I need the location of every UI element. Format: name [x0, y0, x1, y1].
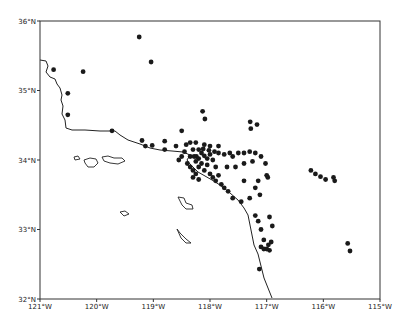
station-point	[263, 161, 268, 166]
island-outline	[102, 156, 125, 164]
station-point	[270, 224, 275, 229]
station-point	[110, 128, 115, 133]
station-point	[182, 149, 187, 154]
station-point	[203, 117, 208, 122]
station-point	[313, 172, 318, 177]
station-point	[247, 149, 252, 154]
y-tick-label: 34°N	[18, 157, 36, 165]
y-tick-label: 33°N	[18, 226, 36, 234]
station-point	[137, 35, 142, 40]
station-point	[210, 158, 215, 163]
station-point	[230, 154, 235, 159]
station-point	[205, 163, 210, 168]
station-point	[216, 151, 221, 156]
station-point	[205, 156, 210, 161]
station-point	[207, 148, 212, 153]
station-point	[259, 227, 264, 232]
station-point	[199, 161, 204, 166]
station-point	[318, 174, 323, 179]
station-point	[253, 151, 258, 156]
station-point	[213, 165, 218, 170]
station-point	[256, 219, 261, 224]
station-point	[65, 91, 70, 96]
station-point	[255, 122, 260, 127]
station-point	[162, 147, 167, 152]
station-point	[174, 144, 179, 149]
coastline-path	[40, 60, 272, 298]
station-point	[226, 189, 231, 194]
station-point	[242, 151, 247, 156]
station-point	[51, 67, 56, 72]
station-point	[242, 178, 247, 183]
x-tick-label: 117°W	[255, 303, 279, 311]
station-point	[253, 185, 258, 190]
station-point	[250, 159, 255, 164]
station-point	[256, 178, 261, 183]
station-point	[323, 177, 328, 182]
x-tick-label: 121°W	[28, 303, 52, 311]
x-axis-ticks: 121°W120°W119°W118°W117°W116°W115°W	[28, 299, 392, 311]
station-point	[143, 144, 148, 149]
station-point	[259, 154, 264, 159]
station-point	[201, 147, 206, 152]
map-frame	[40, 21, 380, 299]
station-point	[196, 147, 201, 152]
station-point	[191, 147, 196, 152]
x-tick-label: 118°W	[198, 303, 222, 311]
station-point	[188, 140, 193, 145]
station-point	[81, 69, 86, 74]
station-point	[162, 139, 167, 144]
map-figure: 121°W120°W119°W118°W117°W116°W115°W 36°N…	[0, 0, 409, 324]
station-point	[193, 140, 198, 145]
y-tick-label: 35°N	[18, 87, 36, 95]
station-point	[208, 152, 213, 157]
island-outline	[177, 229, 191, 243]
station-point	[213, 178, 218, 183]
x-tick-label: 115°W	[368, 303, 392, 311]
channel-islands	[74, 156, 193, 243]
island-outline	[84, 158, 98, 167]
station-point	[264, 173, 269, 178]
station-point	[247, 196, 252, 201]
station-point	[149, 60, 154, 65]
x-tick-label: 119°W	[141, 303, 165, 311]
station-point	[253, 213, 258, 218]
station-point	[202, 168, 207, 173]
island-outline	[178, 197, 193, 209]
station-point	[150, 143, 155, 148]
x-tick-label: 116°W	[311, 303, 335, 311]
station-point	[267, 215, 272, 220]
station-point	[233, 165, 238, 170]
station-point	[200, 109, 205, 114]
station-point	[269, 240, 274, 245]
island-outline	[74, 156, 80, 160]
data-points	[51, 35, 352, 272]
station-point	[225, 165, 230, 170]
station-point	[242, 161, 247, 166]
y-axis-ticks: 36°N35°N34°N33°N32°N	[18, 18, 40, 304]
station-point	[230, 196, 235, 201]
station-point	[257, 267, 262, 272]
y-tick-label: 32°N	[18, 296, 36, 304]
station-point	[332, 178, 337, 183]
y-tick-label: 36°N	[18, 18, 36, 26]
station-point	[239, 199, 244, 204]
station-point	[216, 144, 221, 149]
station-point	[222, 185, 227, 190]
station-point	[216, 173, 221, 178]
station-point	[348, 249, 353, 254]
station-point	[202, 142, 207, 147]
station-point	[140, 138, 145, 143]
station-point	[179, 128, 184, 133]
station-point	[345, 241, 350, 246]
station-point	[261, 238, 266, 243]
station-point	[258, 192, 263, 197]
station-point	[65, 112, 70, 117]
island-outline	[120, 211, 129, 216]
station-point	[191, 175, 196, 180]
station-point	[193, 159, 198, 164]
station-point	[208, 144, 213, 149]
station-point	[267, 248, 272, 253]
station-point	[248, 119, 253, 124]
station-point	[236, 151, 241, 156]
